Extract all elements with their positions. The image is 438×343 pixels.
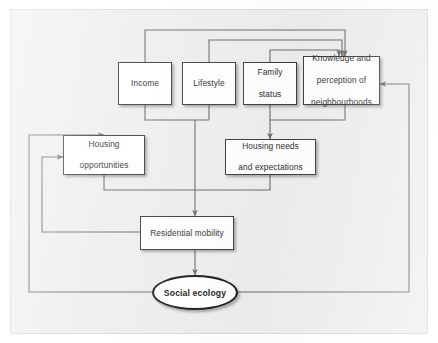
edge-income-to-bus: [145, 105, 209, 120]
node-knowledge-label: Knowledge and perception of neighbourhoo…: [305, 53, 378, 108]
edge-socialecology-to-knowledge: [238, 84, 409, 292]
node-residential-mobility-label: Residential mobility: [147, 228, 226, 239]
node-social-ecology[interactable]: Social ecology: [152, 275, 238, 310]
node-income[interactable]: Income: [118, 62, 172, 105]
node-housing-needs-label: Housing needs and expectations: [232, 141, 308, 174]
node-knowledge[interactable]: Knowledge and perception of neighbourhoo…: [303, 56, 380, 105]
node-family-status-label: Family status: [251, 67, 288, 100]
node-housing-needs[interactable]: Housing needs and expectations: [225, 139, 316, 175]
node-lifestyle[interactable]: Lifestyle: [182, 62, 236, 105]
node-residential-mobility[interactable]: Residential mobility: [140, 216, 234, 250]
edge-housingopportunities-to-residentialmobility: [104, 175, 195, 190]
figure-canvas: Income Lifestyle Family status Knowledge…: [0, 0, 438, 343]
node-family-status[interactable]: Family status: [243, 62, 297, 105]
node-social-ecology-label: Social ecology: [164, 288, 226, 298]
node-housing-opportunities-label: Housing opportunities: [74, 139, 135, 172]
node-housing-opportunities[interactable]: Housing opportunities: [63, 135, 145, 175]
node-income-label: Income: [128, 78, 162, 89]
node-lifestyle-label: Lifestyle: [190, 78, 227, 89]
edge-housingneeds-to-residentialmobility: [195, 175, 270, 190]
